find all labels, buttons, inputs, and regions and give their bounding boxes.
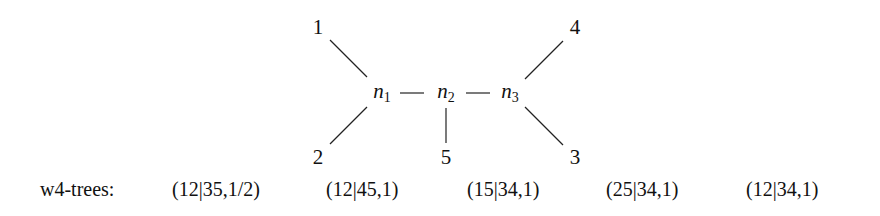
node-n3-base: n	[501, 79, 512, 103]
node-n1-sub: 1	[384, 90, 391, 105]
edge-2-n1	[330, 107, 367, 144]
w4-trees-label: w4-trees:	[40, 178, 114, 201]
w4-tree-item: (15|34,1)	[467, 178, 539, 201]
node-n2-sub: 2	[448, 90, 455, 105]
edge-n3-4	[525, 41, 563, 79]
node-n2: n2	[437, 81, 455, 105]
w4-tree-item: (12|35,1/2)	[172, 178, 260, 201]
edge-1-n1	[330, 40, 367, 77]
leaf-5: 5	[441, 147, 452, 168]
leaf-1: 1	[313, 17, 324, 38]
edge-n3-3	[525, 107, 563, 145]
node-n1: n1	[373, 81, 391, 105]
node-n3: n3	[501, 81, 519, 105]
w4-tree-item: (25|34,1)	[606, 178, 678, 201]
node-n3-sub: 3	[512, 90, 519, 105]
w4-tree-item: (12|34,1)	[746, 178, 818, 201]
node-n1-base: n	[373, 79, 384, 103]
node-n2-base: n	[437, 79, 448, 103]
w4-tree-item: (12|45,1)	[326, 178, 398, 201]
leaf-2: 2	[313, 147, 324, 168]
leaf-3: 3	[570, 147, 581, 168]
leaf-4: 4	[570, 17, 581, 38]
